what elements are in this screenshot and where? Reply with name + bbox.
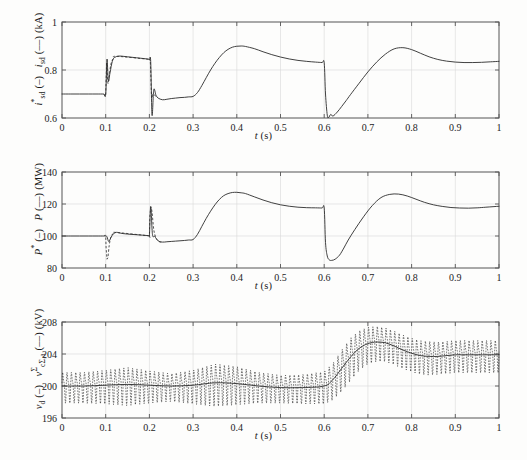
y-axis-label-current: i*sd (–) isd (––) (kA)	[30, 0, 56, 134]
y-axis-label-voltage: vd (–) vΣcΣ,a (––) (kV)	[30, 284, 56, 434]
y-axis-label-power: P* (–) P (––) (MW)	[30, 134, 56, 284]
plot-panel-voltage: 00.10.20.30.40.50.60.70.80.9119620020420…	[0, 302, 527, 452]
figure-container: 00.10.20.30.40.50.60.70.80.910.60.81 i*s…	[0, 0, 527, 460]
x-axis-label-power: t (s)	[0, 280, 527, 291]
x-axis-label-voltage: t (s)	[0, 430, 527, 441]
x-axis-label-current: t (s)	[0, 130, 527, 141]
plot-panel-power: 00.10.20.30.40.50.60.70.80.9180100120140…	[0, 152, 527, 302]
plot-panel-current: 00.10.20.30.40.50.60.70.80.910.60.81 i*s…	[0, 2, 527, 152]
